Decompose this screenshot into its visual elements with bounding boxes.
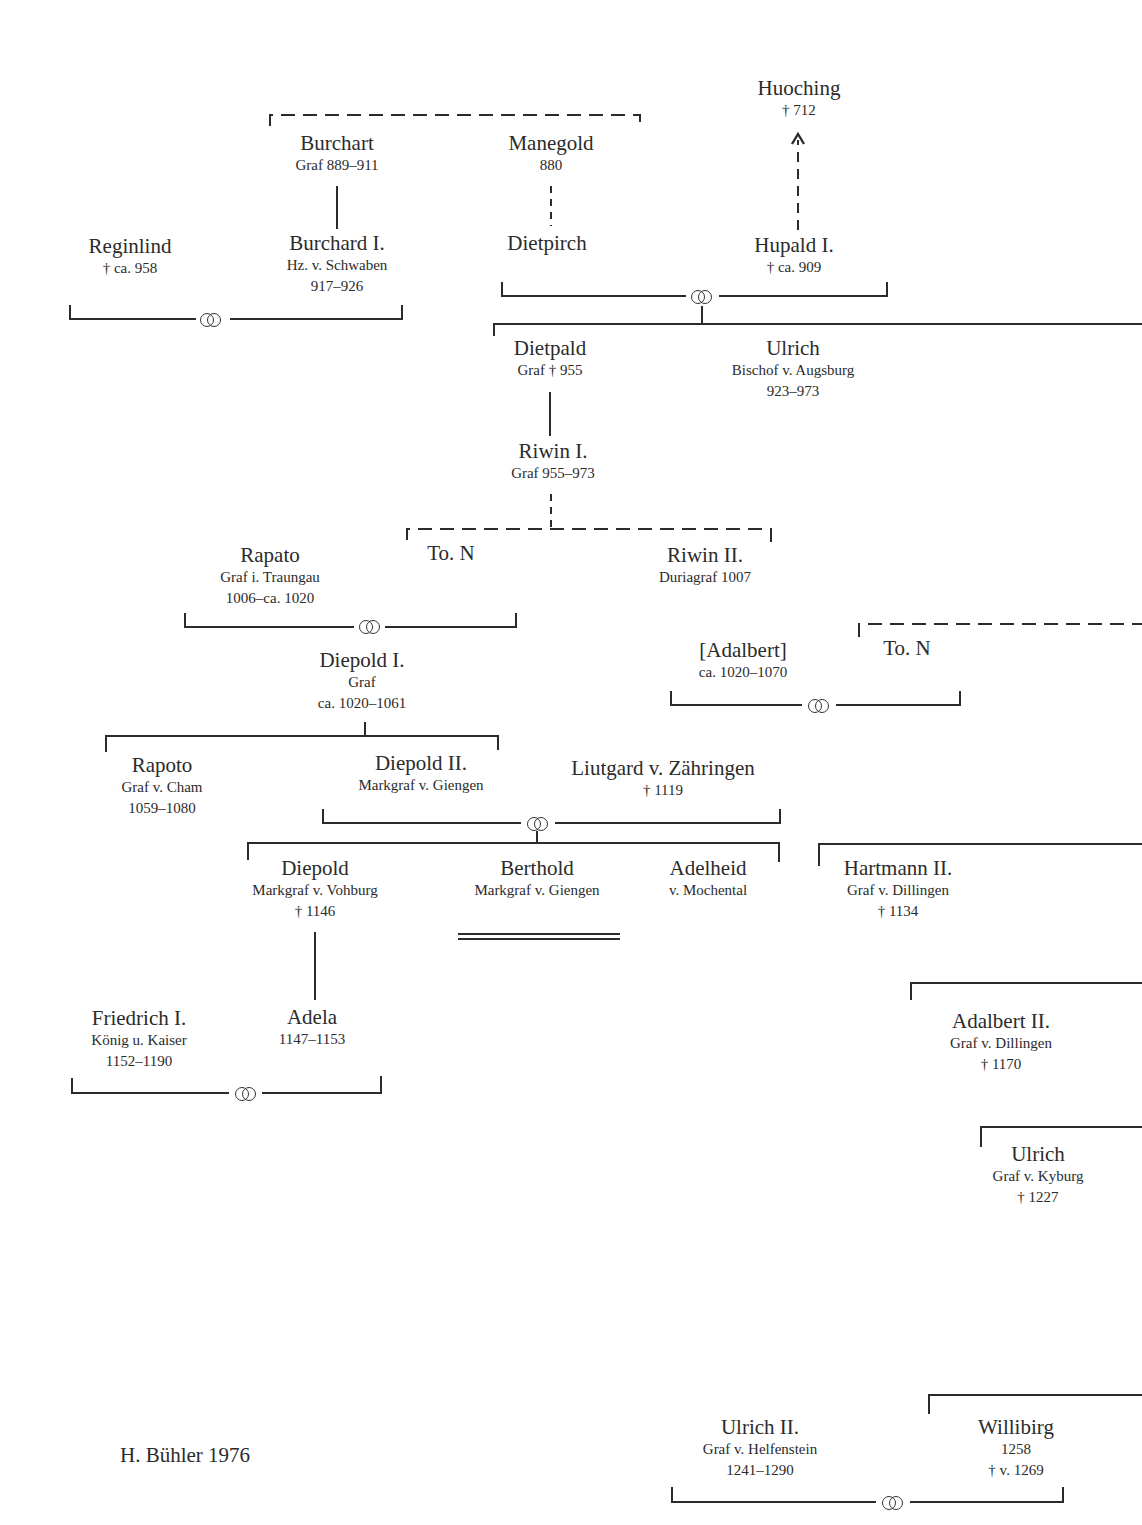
marriage-rings-icon: [359, 620, 381, 634]
person-dietpirch: Dietpirch: [507, 231, 586, 255]
person-riwin-2: Riwin II. Duriagraf 1007: [659, 543, 751, 588]
person-ulrich-2: Ulrich II. Graf v. Helfenstein 1241–1290: [703, 1415, 817, 1481]
person-willibirg: Willibirg 1258 † v. 1269: [978, 1415, 1054, 1481]
person-riwin-1: Riwin I. Graf 955–973: [511, 439, 595, 484]
person-hupald-1: Hupald I. † ca. 909: [754, 233, 833, 278]
person-burchard-1: Burchard I. Hz. v. Schwaben 917–926: [287, 231, 388, 297]
marriage-rings-icon: [808, 699, 830, 713]
person-dietpald: Dietpald Graf † 955: [514, 336, 586, 381]
marriage-rings-icon: [882, 1496, 904, 1510]
person-adalbert: [Adalbert] ca. 1020–1070: [699, 638, 787, 683]
person-rapoto: Rapoto Graf v. Cham 1059–1080: [121, 753, 202, 819]
marriage-rings-icon: [200, 313, 222, 327]
person-ulrich-kyburg: Ulrich Graf v. Kyburg † 1227: [993, 1142, 1084, 1208]
person-reginlind: Reginlind † ca. 958: [89, 234, 172, 279]
person-diepold-vohburg: Diepold Markgraf v. Vohburg † 1146: [252, 856, 377, 922]
person-rapato: Rapato Graf i. Traungau 1006–ca. 1020: [220, 543, 320, 609]
dashed-sibling-bracket-top: [270, 115, 640, 127]
person-hartmann-2: Hartmann II. Graf v. Dillingen † 1134: [844, 856, 952, 922]
person-manegold: Manegold 880: [508, 131, 593, 176]
person-diepold-1: Diepold I. Graf ca. 1020–1061: [318, 648, 406, 714]
genealogy-diagram: Huoching † 712 Burchart Graf 889–911 Man…: [0, 0, 1142, 1525]
marriage-rings-icon: [527, 817, 549, 831]
person-huoching: Huoching † 712: [758, 76, 841, 121]
person-ulrich-bischof: Ulrich Bischof v. Augsburg 923–973: [732, 336, 855, 402]
person-burchart: Burchart Graf 889–911: [295, 131, 378, 176]
person-to-n-2: To. N: [883, 636, 931, 660]
person-to-n-1: To. N: [427, 541, 475, 565]
person-friedrich-1: Friedrich I. König u. Kaiser 1152–1190: [91, 1006, 186, 1072]
person-liutgard: Liutgard v. Zähringen † 1119: [571, 756, 755, 801]
author-credit: H. Bühler 1976: [120, 1443, 250, 1468]
person-adelheid: Adelheid v. Mochental: [669, 856, 747, 901]
marriage-rings-icon: [691, 290, 713, 304]
person-berthold: Berthold Markgraf v. Giengen: [474, 856, 599, 901]
marriage-rings-icon: [235, 1087, 257, 1101]
person-adela: Adela 1147–1153: [279, 1005, 345, 1050]
person-diepold-2: Diepold II. Markgraf v. Giengen: [358, 751, 483, 796]
person-adalbert-2: Adalbert II. Graf v. Dillingen † 1170: [950, 1009, 1052, 1075]
